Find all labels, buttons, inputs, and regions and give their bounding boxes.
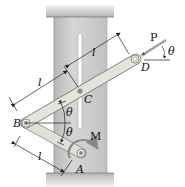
label-theta-p: θ [168,45,175,58]
top-wall [46,5,114,17]
pin-c [77,88,82,93]
label-l-bc: l [38,76,42,89]
label-b: B [12,117,21,130]
label-p: P [150,31,158,44]
mechanism-diagram: P θ D C B A M θ θ l l l [0,0,185,187]
label-l-ab: l [38,150,42,163]
pin-d [131,55,139,63]
label-c: C [84,93,93,106]
pin-a [77,149,85,157]
label-m: M [90,130,101,143]
label-l-cd: l [92,46,96,59]
vertical-slot [78,33,82,129]
label-theta-upper: θ [66,106,73,119]
label-d: D [140,61,150,74]
label-a: A [75,163,84,176]
label-theta-lower: θ [66,126,73,139]
